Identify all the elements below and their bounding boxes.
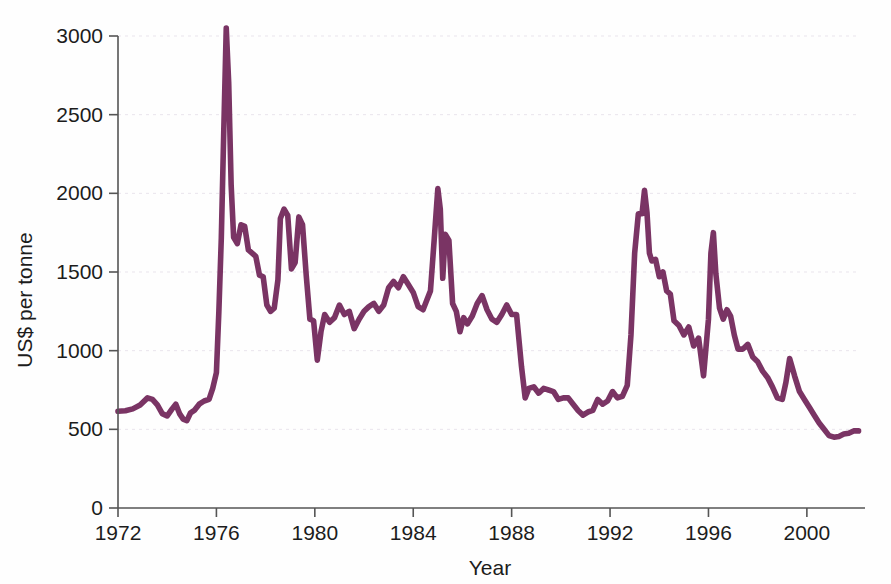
x-tick-label: 1988 — [488, 521, 535, 544]
y-tick-label: 3000 — [56, 24, 103, 47]
x-tick-label: 1980 — [291, 521, 338, 544]
y-tick-label: 0 — [91, 496, 103, 519]
x-tick-label: 1984 — [390, 521, 437, 544]
x-tick-label: 1992 — [587, 521, 634, 544]
x-tick-label: 1976 — [193, 521, 240, 544]
x-axis-title: Year — [469, 556, 511, 579]
series-group — [118, 28, 859, 437]
x-tick-label: 2000 — [784, 521, 831, 544]
y-tick-label: 2000 — [56, 181, 103, 204]
y-tick-group: 050010001500200025003000 — [56, 24, 118, 519]
y-tick-label: 2500 — [56, 103, 103, 126]
y-tick-label: 1500 — [56, 260, 103, 283]
line-chart: 050010001500200025003000 197219761980198… — [0, 0, 891, 584]
y-tick-label: 500 — [68, 417, 103, 440]
x-tick-label: 1972 — [95, 521, 142, 544]
x-tick-group: 19721976198019841988199219962000 — [95, 508, 831, 544]
y-axis-title: US$ per tonne — [13, 232, 36, 367]
chart-figure: 050010001500200025003000 197219761980198… — [0, 0, 891, 584]
x-tick-label: 1996 — [685, 521, 732, 544]
data-series-line — [118, 28, 859, 437]
y-tick-label: 1000 — [56, 339, 103, 362]
